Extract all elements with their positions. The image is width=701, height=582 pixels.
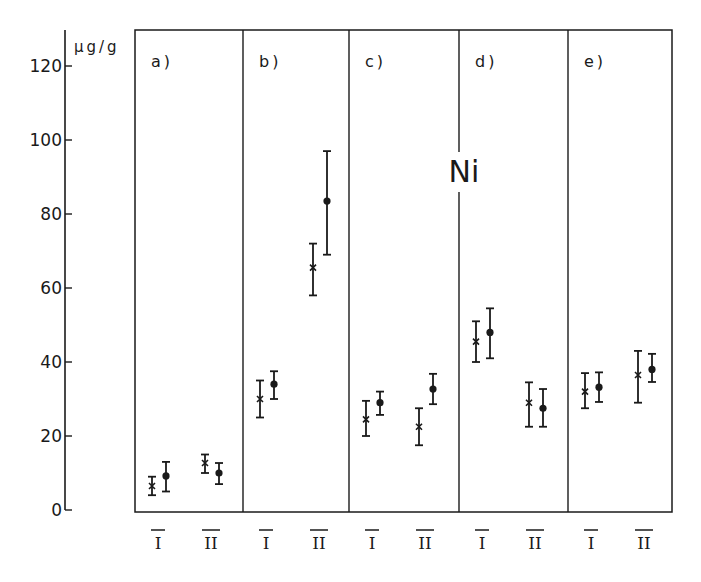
cross-marker xyxy=(201,455,209,474)
y-tick-label: 60 xyxy=(40,278,62,298)
group-label: II xyxy=(312,533,325,553)
cross-marker xyxy=(581,373,589,408)
group-label: II xyxy=(204,533,217,553)
y-axis: 020406080100120μg/g xyxy=(30,30,120,520)
cross-marker xyxy=(472,321,480,362)
panel-frame xyxy=(135,30,672,512)
dot-marker xyxy=(215,463,223,484)
group-label: II xyxy=(528,533,541,553)
ni-chart: 020406080100120μg/g a)b)c)d)e) IIIIIIIII… xyxy=(0,0,701,582)
y-unit-label: μg/g xyxy=(74,38,120,56)
cross-marker xyxy=(362,401,370,436)
y-tick-label: 20 xyxy=(40,426,62,446)
y-tick-label: 100 xyxy=(30,130,62,150)
dot-marker xyxy=(648,354,656,382)
group-label: I xyxy=(155,533,162,553)
y-tick-label: 80 xyxy=(40,204,62,224)
group-label: I xyxy=(479,533,486,553)
dot-marker xyxy=(429,374,437,404)
group-label: I xyxy=(588,533,595,553)
group-label: I xyxy=(369,533,376,553)
group-label: I xyxy=(263,533,270,553)
dot-marker xyxy=(486,308,494,358)
panels: a)b)c)d)e) xyxy=(135,30,672,512)
y-tick-label: 120 xyxy=(30,56,62,76)
cross-marker xyxy=(309,244,317,296)
cross-marker xyxy=(415,408,423,445)
dot-marker xyxy=(539,389,547,427)
dot-marker xyxy=(376,392,384,415)
element-label: Ni xyxy=(442,152,486,192)
cross-marker xyxy=(148,477,156,496)
y-tick-label: 40 xyxy=(40,352,62,372)
panel-label: a) xyxy=(151,52,173,71)
panel-label: c) xyxy=(365,52,386,71)
cross-marker xyxy=(525,382,533,426)
group-label: II xyxy=(418,533,431,553)
dot-marker xyxy=(595,372,603,402)
data-points xyxy=(148,151,656,495)
dot-marker xyxy=(270,371,278,399)
x-group-labels: IIIIIIIIIIIIIII xyxy=(151,530,653,553)
panel-label: b) xyxy=(259,52,281,71)
dot-marker xyxy=(323,151,331,255)
panel-label: e) xyxy=(584,52,606,71)
cross-marker xyxy=(256,381,264,418)
panel-label: d) xyxy=(475,52,497,71)
y-tick-label: 0 xyxy=(51,500,62,520)
group-label: II xyxy=(637,533,650,553)
dot-marker xyxy=(162,462,170,492)
cross-marker xyxy=(634,351,642,403)
